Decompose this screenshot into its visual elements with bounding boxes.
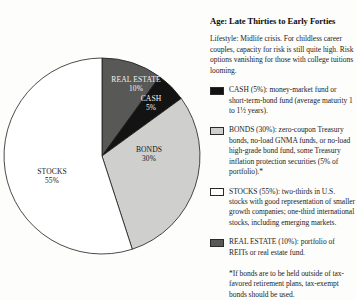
legend-text-stocks: STOCKS (55%): two-thirds in U.S. stocks … [229, 187, 355, 229]
legend-item-bonds[interactable]: BONDS (30%): zero-coupon Treasury bonds,… [210, 125, 355, 177]
legend-swatch-bonds [210, 127, 224, 135]
legend-text-bonds: BONDS (30%): zero-coupon Treasury bonds,… [229, 125, 355, 177]
legend-item-cash[interactable]: CASH (5%): money-market fund or short-te… [210, 85, 355, 116]
legend-item-stocks[interactable]: STOCKS (55%): two-thirds in U.S. stocks … [210, 187, 355, 229]
pie-chart-svg [2, 56, 202, 256]
page-title: Age: Late Thirties to Early Forties [210, 17, 355, 26]
legend-text-real-estate: REAL ESTATE (10%): portfolio of REITs or… [229, 237, 355, 258]
legend-text-cash: CASH (5%): money-market fund or short-te… [229, 85, 355, 116]
footnote: *If bonds are to be held outside of tax-… [229, 269, 355, 300]
lifestyle-paragraph: Lifestyle: Midlife crisis. For childless… [210, 34, 355, 76]
legend-swatch-real-estate [210, 239, 224, 247]
legend-swatch-stocks [210, 188, 224, 196]
legend-item-real-estate[interactable]: REAL ESTATE (10%): portfolio of REITs or… [210, 237, 355, 258]
legend-swatch-cash [210, 87, 224, 95]
pie-chart: REAL ESTATE 10% CASH 5% BONDS 30% STOCKS… [0, 0, 205, 300]
allocation-infographic: REAL ESTATE 10% CASH 5% BONDS 30% STOCKS… [0, 0, 357, 300]
legend-panel: Age: Late Thirties to Early Forties Life… [210, 17, 355, 300]
